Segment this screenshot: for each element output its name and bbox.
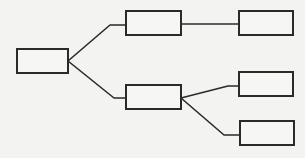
connector-child-bottom-to-leaf-middle — [181, 86, 239, 98]
tree-diagram — [0, 0, 305, 158]
node-leaf-middle — [239, 72, 293, 96]
connector-child-bottom-to-leaf-bottom — [181, 98, 240, 135]
connector-root-to-child-bottom — [68, 61, 126, 98]
diagram-svg — [0, 0, 305, 158]
connector-root-to-child-top — [68, 25, 126, 61]
node-box — [240, 121, 294, 145]
node-box — [239, 11, 293, 35]
node-leaf-top — [239, 11, 293, 35]
node-box — [126, 11, 181, 35]
node-box — [17, 49, 68, 73]
node-child-top — [126, 11, 181, 35]
node-box — [126, 85, 181, 109]
node-box — [239, 72, 293, 96]
node-child-bottom — [126, 85, 181, 109]
edges-group — [68, 24, 240, 135]
node-leaf-bottom — [240, 121, 294, 145]
node-root — [17, 49, 68, 73]
nodes-group — [17, 11, 294, 145]
